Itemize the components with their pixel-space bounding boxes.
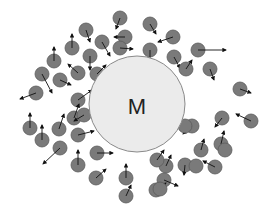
small-particle bbox=[189, 159, 203, 173]
small-particle bbox=[179, 60, 193, 76]
diagram-canvas: M bbox=[0, 0, 272, 216]
small-particle bbox=[218, 143, 232, 157]
small-particle bbox=[194, 139, 208, 157]
small-particle bbox=[167, 50, 181, 68]
small-particle bbox=[23, 113, 37, 135]
small-particle bbox=[119, 164, 133, 185]
small-particle bbox=[95, 35, 110, 56]
big-particle-label: M bbox=[128, 94, 146, 119]
small-particle bbox=[215, 111, 229, 127]
small-particle bbox=[158, 30, 180, 44]
small-particle bbox=[65, 34, 79, 55]
small-particle bbox=[79, 23, 93, 42]
small-particle bbox=[90, 146, 113, 160]
small-particle-circle bbox=[218, 143, 232, 157]
small-particle bbox=[83, 49, 97, 70]
small-particle bbox=[89, 169, 106, 185]
small-particle-circle bbox=[153, 182, 167, 196]
small-particle bbox=[53, 73, 71, 87]
small-particle bbox=[191, 43, 226, 57]
small-particle bbox=[143, 17, 157, 34]
small-particle bbox=[236, 114, 258, 128]
small-particle bbox=[71, 128, 94, 142]
small-particle bbox=[113, 41, 133, 55]
small-particle bbox=[150, 150, 164, 167]
small-particle bbox=[203, 62, 217, 80]
small-particle bbox=[119, 185, 133, 203]
small-particle bbox=[153, 182, 167, 196]
small-particle-circle bbox=[189, 159, 203, 173]
small-particle bbox=[113, 11, 127, 29]
small-particle bbox=[52, 114, 66, 136]
small-particle bbox=[203, 160, 222, 174]
small-particle bbox=[71, 150, 85, 172]
small-particle bbox=[68, 64, 85, 80]
velocity-arrow-icon bbox=[43, 148, 60, 164]
big-particle: M bbox=[89, 56, 185, 152]
small-particle bbox=[20, 86, 43, 100]
small-particle bbox=[47, 47, 61, 68]
small-particle bbox=[233, 82, 251, 96]
